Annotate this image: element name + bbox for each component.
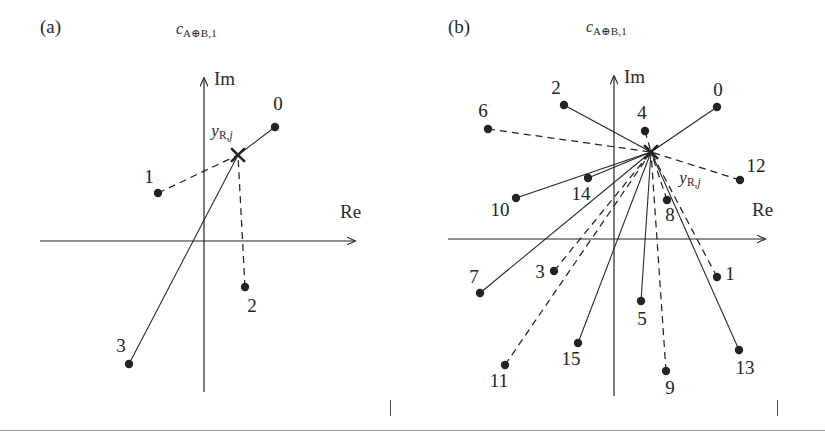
point-label-5: 5 [637, 308, 647, 330]
panel-a: (a) cA⊕B,1 Im Re yR,j 0123 [0, 0, 412, 435]
constellation-point-13[interactable] [735, 346, 743, 354]
connector-line-0 [651, 107, 717, 152]
point-label-15: 15 [562, 348, 581, 370]
point-label-14: 14 [572, 183, 591, 205]
constellation-point-2[interactable] [241, 283, 249, 291]
point-label-2: 2 [247, 295, 257, 317]
point-label-1: 1 [144, 166, 154, 188]
connector-line-1 [158, 155, 238, 193]
point-label-12: 12 [747, 155, 766, 177]
point-label-10: 10 [491, 199, 510, 221]
point-label-3: 3 [535, 261, 545, 283]
connector-line-12 [651, 152, 740, 180]
constellation-point-12[interactable] [736, 176, 744, 184]
constellation-point-3[interactable] [125, 360, 133, 368]
panel-a-plot [0, 0, 412, 435]
point-label-4: 4 [637, 102, 647, 124]
connector-line-13 [651, 152, 739, 350]
panel-b-plot [412, 0, 824, 435]
constellation-point-11[interactable] [501, 361, 509, 369]
point-label-7: 7 [469, 266, 479, 288]
point-label-9: 9 [665, 377, 675, 399]
point-label-13: 13 [736, 357, 755, 379]
constellation-point-8[interactable] [663, 196, 671, 204]
constellation-point-9[interactable] [662, 367, 670, 375]
connector-line-8 [651, 152, 667, 200]
bottom-rule [0, 430, 825, 431]
constellation-point-1[interactable] [154, 189, 162, 197]
constellation-point-4[interactable] [641, 127, 649, 135]
crop-tick-left [390, 400, 391, 416]
connector-line-9 [651, 152, 666, 371]
point-label-2: 2 [551, 77, 561, 99]
constellation-point-0[interactable] [713, 103, 721, 111]
point-label-1: 1 [725, 263, 735, 285]
point-label-6: 6 [478, 100, 488, 122]
received-symbol-marker[interactable] [232, 149, 244, 161]
constellation-point-10[interactable] [512, 194, 520, 202]
connector-line-3 [554, 152, 651, 271]
panel-b: (b) cA⊕B,1 Im Re yR,j 012345678910111213… [412, 0, 824, 435]
constellation-point-5[interactable] [637, 297, 645, 305]
point-label-0: 0 [273, 93, 283, 115]
constellation-point-7[interactable] [476, 289, 484, 297]
constellation-point-3[interactable] [550, 267, 558, 275]
constellation-point-14[interactable] [584, 174, 592, 182]
constellation-point-6[interactable] [484, 125, 492, 133]
point-label-0: 0 [713, 79, 723, 101]
point-label-3: 3 [116, 335, 126, 357]
constellation-point-15[interactable] [574, 339, 582, 347]
constellation-point-2[interactable] [560, 101, 568, 109]
point-label-11: 11 [490, 370, 508, 392]
constellation-point-1[interactable] [713, 273, 721, 281]
constellation-point-0[interactable] [271, 123, 279, 131]
connector-line-6 [488, 129, 651, 152]
point-label-8: 8 [665, 204, 675, 226]
figure-root: (a) cA⊕B,1 Im Re yR,j 0123 (b) cA⊕B,1 Im… [0, 0, 825, 435]
crop-tick-right [777, 400, 778, 416]
connector-line-2 [238, 155, 245, 287]
connector-line-1 [651, 152, 717, 277]
connector-line-7 [480, 152, 651, 293]
